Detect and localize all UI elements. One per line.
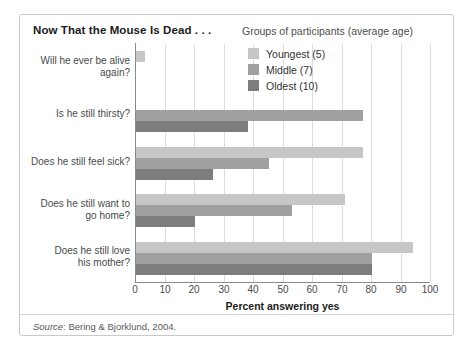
legend-swatch-icon	[248, 80, 259, 91]
x-axis-line	[135, 282, 430, 283]
category-label-line: his mother?	[26, 257, 130, 269]
legend-swatch-icon	[248, 48, 259, 59]
legend-item[interactable]: Middle (7)	[248, 62, 325, 77]
x-axis-tick-label: 60	[306, 284, 317, 295]
category-label-line: Does he still love	[26, 245, 130, 257]
y-axis-line	[135, 43, 136, 283]
bar	[136, 205, 292, 216]
category-label-line: Does he still want to	[26, 198, 130, 210]
bar	[136, 147, 363, 158]
category-label: Will he ever be aliveagain?	[26, 55, 130, 79]
source-divider	[20, 314, 453, 315]
x-axis-tick-label: 80	[365, 284, 376, 295]
category-label-line: again?	[26, 67, 130, 79]
bar-group	[136, 194, 430, 227]
bar	[136, 253, 372, 264]
bar	[136, 121, 248, 132]
chart-title: Now That the Mouse Is Dead . . .	[33, 24, 211, 36]
legend-swatch-icon	[248, 64, 259, 75]
legend-item-label: Youngest (5)	[266, 48, 325, 60]
bar	[136, 51, 145, 62]
x-axis-tick-label: 20	[188, 284, 199, 295]
bar	[136, 264, 372, 275]
category-label-line: go home?	[26, 210, 130, 222]
bar	[136, 194, 345, 205]
bar	[136, 216, 195, 227]
legend-item-label: Middle (7)	[266, 64, 313, 76]
category-label-line: Does he still feel sick?	[26, 156, 130, 168]
source-citation: : Bering & Bjorklund, 2004.	[63, 321, 176, 332]
category-label: Is he still thirsty?	[26, 108, 130, 120]
x-axis-tick-label: 30	[218, 284, 229, 295]
category-label: Does he still want togo home?	[26, 198, 130, 222]
bar	[136, 242, 413, 253]
x-axis-tick-label: 0	[132, 284, 138, 295]
bar	[136, 158, 269, 169]
category-label: Does he still feel sick?	[26, 156, 130, 168]
bar-group	[136, 242, 430, 275]
x-axis-tick-label: 70	[336, 284, 347, 295]
bar	[136, 169, 213, 180]
x-axis-ticks: 0102030405060708090100	[135, 284, 430, 298]
legend-item-label: Oldest (10)	[266, 80, 318, 92]
source-note: Source: Bering & Bjorklund, 2004.	[33, 321, 176, 332]
x-axis-label: Percent answering yes	[135, 300, 430, 312]
legend-item[interactable]: Oldest (10)	[248, 78, 325, 93]
category-label: Does he still lovehis mother?	[26, 245, 130, 269]
chart-figure: Now That the Mouse Is Dead . . . Groups …	[19, 14, 454, 336]
x-axis-tick-label: 90	[395, 284, 406, 295]
chart-legend: Youngest (5)Middle (7)Oldest (10)	[248, 46, 325, 94]
bar-group	[136, 147, 430, 180]
x-axis-tick-label: 10	[159, 284, 170, 295]
bar-group	[136, 99, 430, 132]
x-axis-tick-label: 100	[422, 284, 439, 295]
x-axis-tick-label: 50	[277, 284, 288, 295]
legend-title: Groups of participants (average age)	[242, 25, 413, 37]
source-word: Source	[33, 321, 63, 332]
category-label-line: Will he ever be alive	[26, 55, 130, 67]
category-label-line: Is he still thirsty?	[26, 108, 130, 120]
legend-item[interactable]: Youngest (5)	[248, 46, 325, 61]
category-axis-labels: Will he ever be aliveagain?Is he still t…	[20, 44, 130, 282]
x-axis-tick-label: 40	[247, 284, 258, 295]
gridline	[430, 44, 431, 282]
bar	[136, 110, 363, 121]
